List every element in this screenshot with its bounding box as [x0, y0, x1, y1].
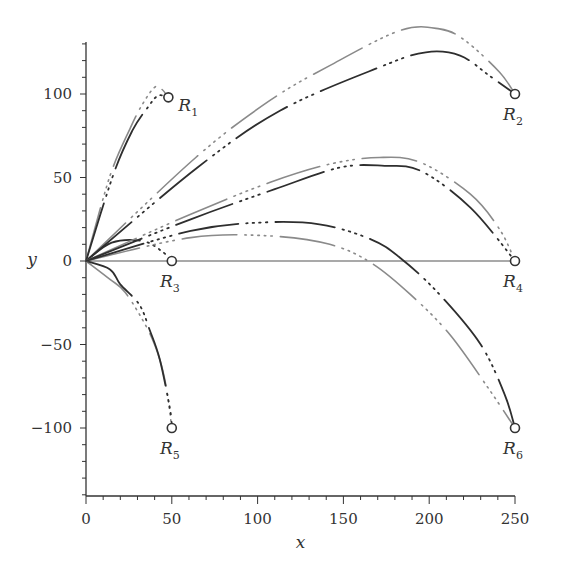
x-tick-label: 250 — [501, 510, 530, 528]
x-tick-label: 200 — [415, 510, 444, 528]
y-tick-label: 50 — [53, 169, 72, 187]
target-point-R2 — [511, 90, 520, 99]
series-R1-dark — [86, 95, 168, 261]
target-label-R1: R1 — [177, 95, 198, 119]
series-R2-grey — [86, 27, 515, 261]
y-tick-label: −50 — [40, 336, 72, 354]
target-label-R2: R2 — [502, 104, 523, 128]
target-label-R4: R4 — [502, 271, 523, 295]
x-tick-label: 100 — [243, 510, 272, 528]
series-R6-dark — [86, 222, 515, 428]
axes: −100−50050100050100150200250 — [31, 42, 530, 528]
target-label-R3: R3 — [159, 271, 180, 295]
series-layer — [86, 27, 515, 428]
series-R4-dark — [86, 165, 515, 261]
trajectory-chart: −100−50050100050100150200250 R1R2R3R4R5R… — [0, 0, 562, 573]
y-axis-label: y — [26, 249, 37, 269]
target-point-R1 — [164, 93, 173, 102]
targets-layer: R1R2R3R4R5R6 — [159, 90, 523, 463]
target-point-R3 — [167, 257, 176, 266]
target-point-R6 — [511, 424, 520, 433]
series-R2-dark — [86, 51, 515, 261]
series-R4-grey — [86, 157, 515, 261]
x-tick-label: 50 — [162, 510, 181, 528]
x-axis-label: x — [296, 532, 306, 552]
target-point-R4 — [511, 257, 520, 266]
x-tick-label: 0 — [81, 510, 91, 528]
target-label-R6: R6 — [502, 438, 523, 462]
target-label-R5: R5 — [159, 438, 180, 462]
y-tick-label: −100 — [31, 419, 72, 437]
y-tick-label: 100 — [43, 85, 72, 103]
target-point-R5 — [167, 424, 176, 433]
series-R1-grey — [86, 86, 168, 261]
y-tick-label: 0 — [62, 252, 72, 270]
x-tick-label: 150 — [329, 510, 358, 528]
